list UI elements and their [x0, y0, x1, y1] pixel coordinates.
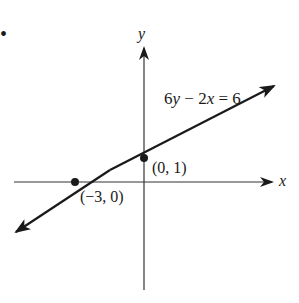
equation-label: 6y − 2x = 6 [164, 90, 241, 107]
point-label-0-1: (0, 1) [152, 160, 187, 176]
point-0-1 [140, 154, 148, 162]
x-axis-label: x [279, 173, 286, 189]
y-axis-label: y [138, 26, 145, 42]
point-neg3-0 [71, 178, 79, 186]
point-label-neg3-0: (−3, 0) [80, 189, 124, 205]
coordinate-plane [0, 0, 299, 303]
